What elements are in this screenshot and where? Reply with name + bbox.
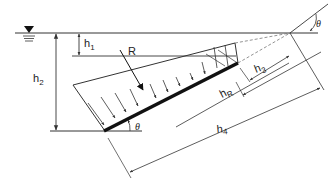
- hR-dimension-arrow: [243, 52, 321, 95]
- dashed-extension-lower: [238, 33, 290, 63]
- theta-bottom-label: θ: [135, 121, 140, 132]
- hydrostatic-diagram: h2 h1 R θ h3 hR: [0, 0, 333, 181]
- R-label: R: [128, 45, 136, 57]
- h2-label: h2: [33, 72, 44, 87]
- inclined-line-extension: [290, 4, 328, 33]
- inclined-plate: [104, 63, 238, 131]
- perp-extension-top: [240, 68, 250, 82]
- h3-label: h3: [252, 60, 268, 78]
- perp-extension-surface: [290, 33, 324, 90]
- water-surface: [15, 26, 318, 41]
- theta-top-label: θ: [316, 18, 321, 29]
- theta-bottom-arc: [128, 120, 130, 131]
- hR-label: hR: [217, 83, 235, 102]
- h1-label: h1: [84, 37, 95, 52]
- perp-extension-bottom: [108, 138, 131, 178]
- water-level-symbol-icon: [24, 26, 34, 33]
- h4-label: h4: [216, 122, 228, 137]
